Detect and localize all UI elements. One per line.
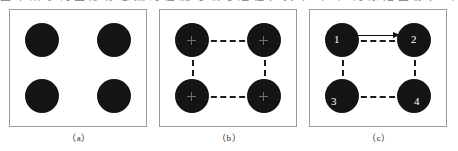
figure-panel-row: （a） （b） 1 [0, 7, 458, 151]
marker-circle-top-left [25, 23, 59, 57]
arrow-head [393, 32, 400, 38]
panel-c-box: 1 2 3 4 [309, 9, 447, 127]
cropped-text-strip: 图 中 所 示 的 圆 形 标 志 点 的 检 测 与 编 号 过 程 ， 其 … [0, 0, 458, 7]
node-number-label-1: 1 [334, 34, 340, 45]
panel-b-box [159, 9, 297, 127]
panel-b: （b） [159, 7, 299, 151]
direction-arrow-icon [351, 31, 401, 40]
crosshair-icon-bottom-left [187, 92, 196, 101]
panel-a-box [9, 9, 147, 127]
arrow-shaft [351, 35, 394, 36]
crosshair-icon-top-right [259, 36, 268, 45]
cropped-caption-text: 图 中 所 示 的 圆 形 标 志 点 的 检 测 与 编 号 过 程 ， 其 … [0, 0, 458, 2]
node-number-label-4: 4 [414, 96, 420, 107]
node-number-label-2: 2 [411, 34, 417, 45]
panel-c: 1 2 3 4 （c） [309, 7, 449, 151]
crosshair-icon-top-left [187, 36, 196, 45]
marker-circle-top-left [325, 23, 359, 57]
panel-c-caption: （c） [309, 131, 449, 144]
marker-circle-top-right [97, 23, 131, 57]
panel-a: （a） [9, 7, 149, 151]
marker-circle-bottom-left [25, 79, 59, 113]
panel-b-caption: （b） [159, 131, 299, 144]
crosshair-icon-bottom-right [259, 92, 268, 101]
node-number-label-3: 3 [331, 96, 337, 107]
marker-circle-bottom-right [97, 79, 131, 113]
panel-a-caption: （a） [9, 131, 149, 144]
